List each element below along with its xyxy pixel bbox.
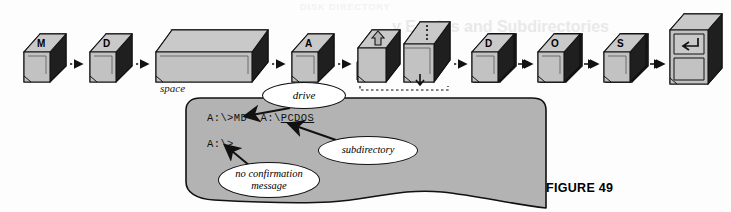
keystroke-sequence-tail: D O S — [468, 0, 728, 95]
key-d-second[interactable] — [430, 34, 472, 82]
key-s[interactable] — [604, 34, 646, 82]
key-d-second-shape[interactable] — [472, 34, 514, 82]
key-enter[interactable] — [670, 14, 722, 84]
key-d-second-label: D — [485, 38, 492, 49]
screen-command-argument: PCDOS — [281, 112, 315, 124]
callout-drive-label: drive — [293, 89, 316, 102]
callout-drive[interactable]: drive — [262, 82, 346, 109]
key-o[interactable] — [538, 34, 580, 82]
callout-subdirectory-label: subdirectory — [342, 144, 395, 156]
callout-no-confirmation-label: no confirmation message — [235, 168, 302, 192]
screen-command-prompt: A:\>MD A:\ — [207, 112, 281, 124]
screen-result-prompt: A:\> — [207, 138, 234, 150]
screen-command-line: A:\>MD A:\PCDOS — [207, 112, 314, 124]
callout-no-confirmation-line1: no confirmation — [235, 168, 302, 179]
space-key-label: space — [160, 82, 185, 94]
key-s-label: S — [617, 38, 624, 49]
figure-caption: FIGURE 49 — [546, 181, 613, 195]
callout-no-confirmation[interactable]: no confirmation message — [218, 162, 320, 198]
callout-no-confirmation-line2: message — [251, 180, 287, 191]
callout-subdirectory[interactable]: subdirectory — [318, 136, 418, 165]
figure-page: y Entries and Subdirectories the sample … — [0, 0, 731, 212]
key-o-label: O — [551, 38, 559, 49]
